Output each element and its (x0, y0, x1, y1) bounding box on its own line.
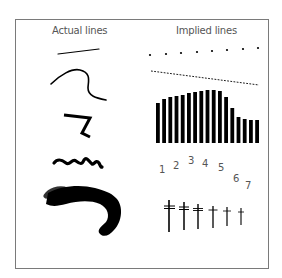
actual-zigzag-line (64, 115, 90, 137)
actual-thick-brush-line (46, 186, 121, 236)
number-6: 6 (233, 173, 239, 184)
implied-cross-markers (164, 200, 244, 232)
number-4: 4 (202, 158, 208, 169)
number-1: 1 (159, 164, 165, 175)
actual-thin-straight-line (58, 49, 99, 54)
actual-wavy-line (54, 159, 102, 168)
implied-bar-silhouette (156, 90, 259, 143)
implied-dashed-line (151, 71, 259, 85)
line-examples (0, 0, 282, 278)
actual-curved-line (51, 70, 106, 100)
number-3: 3 (188, 155, 194, 166)
number-2: 2 (173, 160, 179, 171)
number-5: 5 (218, 162, 224, 173)
number-7: 7 (245, 180, 251, 191)
implied-dotted-line (149, 47, 259, 56)
